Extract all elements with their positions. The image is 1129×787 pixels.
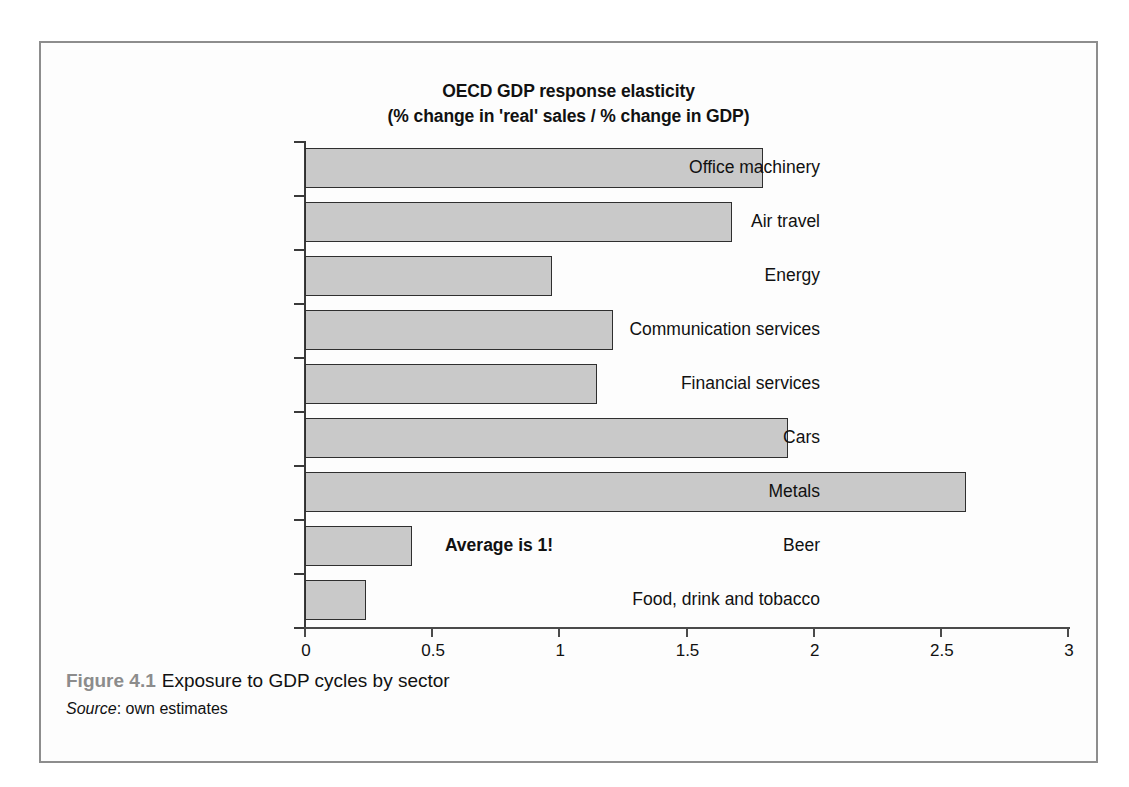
- x-axis-tick: [686, 627, 688, 637]
- y-axis-tick: [294, 195, 305, 197]
- x-axis-tick-label: 3: [1039, 641, 1099, 661]
- chart-title-line2: (% change in 'real' sales / % change in …: [41, 104, 1096, 129]
- x-axis-tick: [1067, 627, 1069, 637]
- x-axis-tick: [304, 627, 306, 637]
- category-label: Beer: [520, 535, 820, 556]
- chart-title: OECD GDP response elasticity (% change i…: [41, 79, 1096, 129]
- category-label: Office machinery: [520, 157, 820, 178]
- y-axis-tick: [294, 465, 305, 467]
- caption-main: Figure 4.1Exposure to GDP cycles by sect…: [66, 668, 1046, 694]
- x-axis-tick: [940, 627, 942, 637]
- bar: [305, 256, 552, 296]
- caption-source-label: Source: [66, 700, 117, 717]
- category-label: Financial services: [520, 373, 820, 394]
- bar: [305, 526, 412, 566]
- x-axis-tick-label: 2.5: [912, 641, 972, 661]
- category-label: Metals: [520, 481, 820, 502]
- figure-caption: Figure 4.1Exposure to GDP cycles by sect…: [66, 668, 1046, 718]
- category-label: Food, drink and tobacco: [520, 589, 820, 610]
- y-axis-tick: [294, 141, 305, 143]
- category-label: Energy: [520, 265, 820, 286]
- caption-source: Source: own estimates: [66, 700, 1046, 718]
- y-axis-tick: [294, 357, 305, 359]
- category-label: Air travel: [520, 211, 820, 232]
- y-axis-tick: [294, 573, 305, 575]
- figure-frame: OECD GDP response elasticity (% change i…: [39, 41, 1098, 763]
- caption-source-value: own estimates: [126, 700, 228, 717]
- x-axis-tick: [431, 627, 433, 637]
- x-axis-tick: [558, 627, 560, 637]
- x-axis-tick-label: 0.5: [403, 641, 463, 661]
- average-annotation: Average is 1!: [445, 535, 553, 556]
- x-axis-tick-label: 0: [276, 641, 336, 661]
- category-label: Communication services: [520, 319, 820, 340]
- category-label: Cars: [520, 427, 820, 448]
- y-axis-tick: [294, 303, 305, 305]
- chart-title-line1: OECD GDP response elasticity: [442, 81, 695, 101]
- caption-figure-number: Figure 4.1: [66, 670, 156, 691]
- caption-source-separator: :: [117, 700, 126, 717]
- caption-figure-title: Exposure to GDP cycles by sector: [162, 670, 450, 691]
- x-axis-tick-label: 2: [785, 641, 845, 661]
- y-axis-tick: [294, 249, 305, 251]
- y-axis-tick: [294, 519, 305, 521]
- bar: [305, 580, 366, 620]
- x-axis-tick-label: 1.5: [658, 641, 718, 661]
- x-axis-tick-label: 1: [530, 641, 590, 661]
- y-axis-tick: [294, 411, 305, 413]
- x-axis-tick: [813, 627, 815, 637]
